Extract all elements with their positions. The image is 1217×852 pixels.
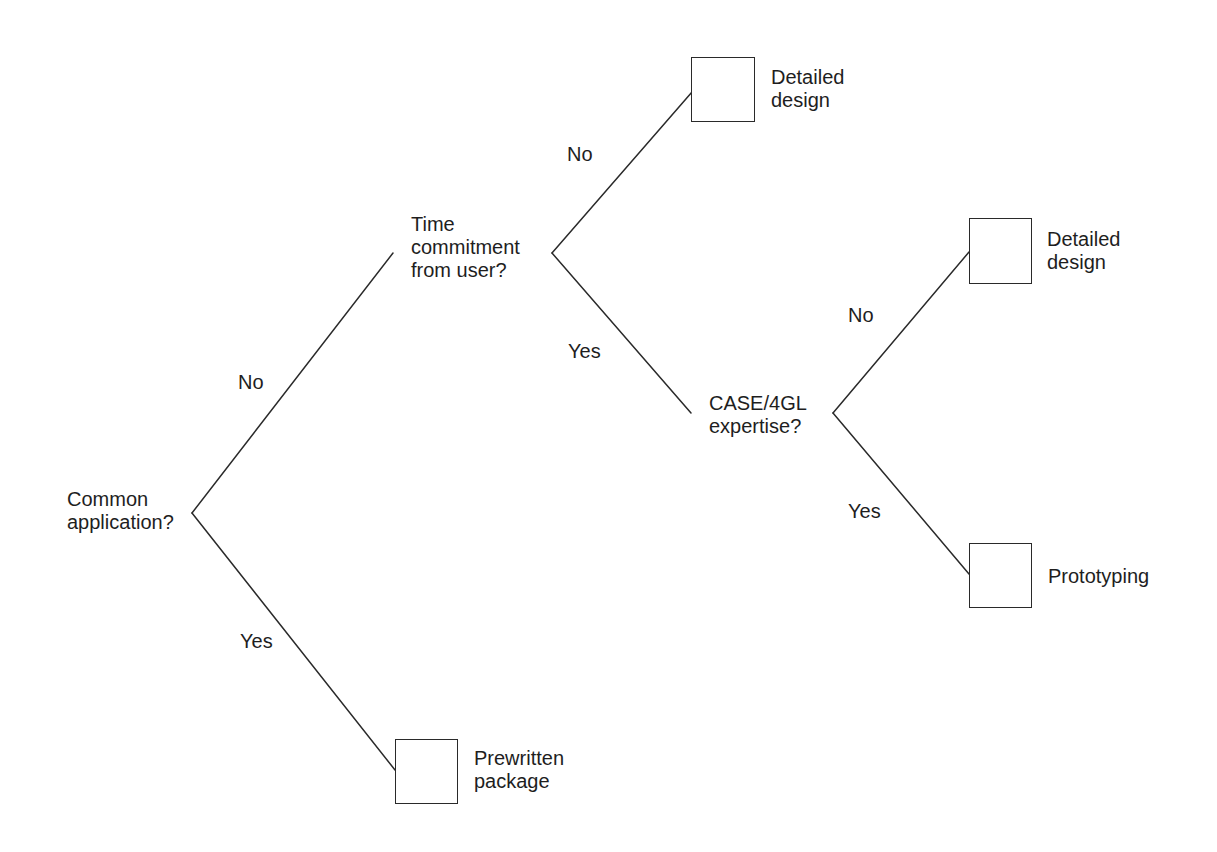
decision-tree-lines xyxy=(0,0,1217,852)
edge-case-no xyxy=(833,252,969,413)
edge-label-time-yes: Yes xyxy=(568,340,601,363)
edge-label-time-no: No xyxy=(567,143,593,166)
edge-case-yes xyxy=(833,413,969,574)
outcome-box-detailed-design-1 xyxy=(691,57,755,122)
edge-label-root-no: No xyxy=(238,371,264,394)
outcome-box-detailed-design-2 xyxy=(969,218,1032,284)
edge-label-root-yes: Yes xyxy=(240,630,273,653)
node-case-4gl-expertise: CASE/4GL expertise? xyxy=(709,392,807,438)
edge-time-no xyxy=(552,92,692,253)
outcome-box-prototyping xyxy=(969,543,1032,608)
outcome-label-prewritten-package: Prewritten package xyxy=(474,747,564,793)
edge-label-case-yes: Yes xyxy=(848,500,881,523)
node-time-commitment: Time commitment from user? xyxy=(411,213,520,282)
edge-root-no xyxy=(192,253,393,513)
outcome-label-prototyping: Prototyping xyxy=(1048,565,1149,588)
node-common-application: Common application? xyxy=(67,488,174,534)
outcome-label-detailed-design-1: Detailed design xyxy=(771,66,844,112)
outcome-label-detailed-design-2: Detailed design xyxy=(1047,228,1120,274)
edge-label-case-no: No xyxy=(848,304,874,327)
edge-root-yes xyxy=(192,513,395,770)
edge-time-yes xyxy=(552,253,691,413)
outcome-box-prewritten-package xyxy=(395,739,458,804)
